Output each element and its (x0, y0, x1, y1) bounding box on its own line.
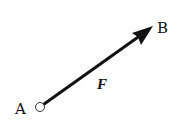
point-a-marker (36, 103, 45, 112)
point-b-label: B (157, 19, 168, 37)
vector-f-label: F (96, 76, 107, 92)
force-diagram: A B F (0, 0, 187, 134)
force-vector-arrow (42, 35, 141, 106)
point-a-label: A (14, 100, 26, 118)
arrowhead-icon (132, 26, 153, 45)
